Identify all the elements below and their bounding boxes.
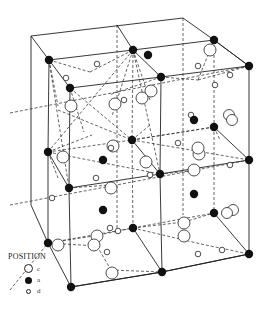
bond-line (133, 228, 201, 244)
bond-line (10, 160, 249, 205)
site-a (210, 209, 218, 217)
site-c (178, 217, 190, 229)
cell-edge (132, 140, 133, 228)
site-a (210, 36, 218, 44)
site-d (93, 175, 99, 181)
site-a (67, 283, 75, 291)
bond-line (133, 50, 160, 174)
large-open-circle-icon (24, 264, 33, 273)
site-d (147, 172, 153, 178)
site-d (195, 63, 201, 69)
crystal-structure-diagram (0, 0, 268, 314)
site-c (65, 100, 77, 112)
legend-label-a: a (37, 276, 40, 284)
site-d (108, 145, 114, 151)
filled-circle-icon (25, 277, 32, 284)
legend-title: POSITION (8, 252, 46, 261)
site-a (158, 268, 166, 276)
bond-line (48, 135, 92, 152)
bond-line (49, 60, 90, 72)
site-d (121, 97, 127, 103)
legend-label-c: c (37, 265, 40, 273)
site-c (109, 98, 121, 110)
site-d (63, 75, 69, 81)
site-c (227, 115, 238, 126)
atom-sites (44, 36, 253, 291)
bond-line (133, 222, 184, 228)
site-a (156, 170, 164, 178)
site-a (245, 156, 253, 164)
cell-edge (31, 205, 48, 243)
legend-item-a: a (24, 276, 40, 284)
site-a (66, 84, 74, 92)
site-c (52, 239, 64, 251)
bond-line (132, 127, 214, 140)
site-c (106, 267, 118, 279)
site-c (178, 230, 190, 242)
cell-edge (183, 18, 214, 40)
cell-edge (49, 60, 70, 88)
site-a (128, 136, 136, 144)
site-d (104, 249, 110, 255)
bond-line (198, 66, 249, 80)
legend-label-d: d (37, 287, 41, 295)
bond-line (111, 270, 162, 272)
bond-line (70, 88, 132, 140)
site-c (136, 92, 148, 104)
site-c (57, 151, 69, 163)
cell-edge (133, 40, 214, 50)
site-d (115, 228, 121, 234)
site-d (219, 247, 225, 253)
bond-line (10, 66, 249, 113)
cell-edge (49, 50, 133, 60)
site-c (192, 142, 204, 154)
site-a (157, 73, 165, 81)
cell-edge (214, 40, 249, 66)
cell-edge (214, 127, 249, 160)
site-a (45, 56, 53, 64)
site-a (129, 224, 137, 232)
site-a (44, 239, 52, 247)
site-a (99, 206, 107, 214)
small-open-circle-icon (26, 289, 31, 294)
site-d (227, 72, 233, 78)
site-d (175, 140, 181, 146)
site-d (212, 82, 218, 88)
cell-edge (31, 18, 183, 36)
cell-edge (133, 213, 214, 228)
site-a (99, 156, 107, 164)
cell-edge (48, 60, 49, 152)
legend-item-c: c (24, 264, 40, 273)
cell-edge (214, 213, 249, 254)
cell-edge (117, 25, 133, 50)
site-a (44, 148, 52, 156)
site-a (210, 123, 218, 131)
site-a (245, 250, 253, 258)
site-d (94, 61, 100, 67)
site-a (144, 51, 152, 59)
site-c (140, 156, 152, 168)
site-c (105, 182, 117, 194)
cell-edge (48, 140, 132, 152)
site-a (245, 62, 253, 70)
cell-edge (161, 66, 249, 77)
site-d (195, 251, 201, 257)
site-d (227, 162, 233, 168)
cell-edge (69, 188, 71, 287)
site-a (190, 190, 198, 198)
cell-edge (132, 50, 133, 140)
cell-edge (133, 228, 162, 272)
cell-edge (160, 160, 249, 174)
site-c (188, 164, 200, 176)
legend-item-d: d (24, 287, 41, 295)
cell-edge (162, 254, 249, 272)
site-d (107, 225, 113, 231)
site-a (190, 116, 198, 124)
site-a (129, 46, 137, 54)
cell-edge (160, 77, 161, 174)
site-a (65, 184, 73, 192)
site-c (204, 44, 216, 56)
site-d (49, 195, 55, 201)
site-c (88, 239, 100, 251)
cell-edge (31, 36, 49, 60)
